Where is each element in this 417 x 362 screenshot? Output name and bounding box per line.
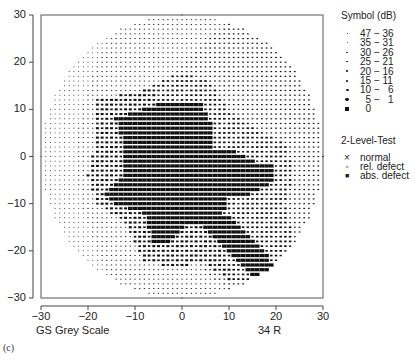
legend-range-label: 25 − 21	[360, 57, 394, 66]
x-tick-label: 0	[167, 311, 197, 322]
legend-dot-icon	[342, 67, 352, 76]
legend-dot-icon	[342, 104, 352, 113]
legend-dot-icon	[342, 85, 352, 94]
x-tick-label: 30	[308, 311, 338, 322]
y-tick-label: 10	[0, 103, 26, 114]
y-tick-label: 0	[0, 151, 26, 162]
relative-defect-circle-icon: ◦	[342, 162, 352, 171]
legend-range-label: 0	[360, 104, 371, 113]
legend-dot-icon	[342, 29, 352, 38]
legend-two-level-label: abs. defect	[360, 171, 409, 180]
legend-dot-icon	[342, 48, 352, 57]
legend-symbol-title: Symbol (dB)	[341, 10, 396, 21]
x-tick-label: −20	[73, 311, 103, 322]
legend-dot-icon	[342, 76, 352, 85]
x-tick-label: −30	[26, 311, 56, 322]
legend-dot-icon	[342, 95, 352, 104]
panel-label: (c)	[3, 342, 14, 353]
subtitle-grey-scale: GS Grey Scale	[36, 324, 109, 336]
x-tick-label: 10	[214, 311, 244, 322]
legend-dot-icon	[342, 38, 352, 47]
y-tick-label: −30	[0, 292, 26, 303]
grey-scale-dot-field	[41, 15, 324, 299]
absolute-defect-square-icon: ■	[342, 171, 352, 180]
y-axis-ticks	[29, 15, 33, 298]
y-tick-label: 30	[0, 9, 26, 20]
x-tick-label: 20	[261, 311, 291, 322]
subtitle-eye-id: 34 R	[258, 324, 281, 336]
legend-two-level-title: 2-Level-Test	[341, 135, 395, 146]
legend-dot-icon	[342, 57, 352, 66]
x-tick-label: −10	[120, 311, 150, 322]
y-tick-label: 20	[0, 56, 26, 67]
visual-field-chart	[0, 0, 417, 362]
y-tick-label: −10	[0, 198, 26, 209]
y-tick-label: −20	[0, 245, 26, 256]
